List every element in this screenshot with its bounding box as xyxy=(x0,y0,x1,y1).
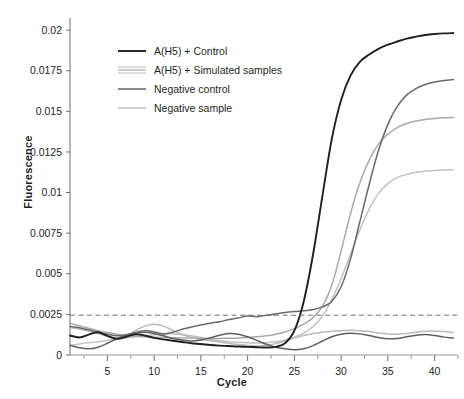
y-tick-label: 0.0175 xyxy=(30,64,62,76)
y-axis-label: Fluorescence xyxy=(22,117,34,227)
y-tick-label: 0.02 xyxy=(42,24,63,36)
y-tick-label: 0 xyxy=(56,349,62,361)
series-line xyxy=(70,170,453,346)
x-axis-ticks: 510152025303540 xyxy=(84,355,458,377)
legend-label: A(H5) + Simulated samples xyxy=(154,64,282,76)
y-tick-label: 0.005 xyxy=(36,267,62,279)
y-tick-label: 0.01 xyxy=(42,186,63,198)
legend-item: Negative control xyxy=(118,83,230,95)
series-line xyxy=(70,80,453,336)
series-line xyxy=(70,33,453,347)
series-group xyxy=(70,33,453,350)
legend-item: A(H5) + Simulated samples xyxy=(118,64,282,76)
series-line xyxy=(70,118,453,339)
legend-label: Negative sample xyxy=(154,102,232,114)
chart-root: 00.00250.0050.00750.010.01250.0150.01750… xyxy=(0,0,464,399)
y-tick-label: 0.015 xyxy=(36,105,62,117)
y-axis-ticks: 00.00250.0050.00750.010.01250.0150.01750… xyxy=(30,24,70,361)
x-axis-label: Cycle xyxy=(0,376,464,388)
legend-label: A(H5) + Control xyxy=(154,45,227,57)
legend-label: Negative control xyxy=(154,83,230,95)
amplification-plot: 00.00250.0050.00750.010.01250.0150.01750… xyxy=(0,0,464,399)
y-tick-label: 0.0075 xyxy=(30,227,62,239)
legend: A(H5) + ControlA(H5) + Simulated samples… xyxy=(118,45,282,114)
y-tick-label: 0.0025 xyxy=(30,308,62,320)
y-tick-label: 0.0125 xyxy=(30,146,62,158)
legend-item: Negative sample xyxy=(118,102,232,114)
legend-item: A(H5) + Control xyxy=(118,45,227,57)
